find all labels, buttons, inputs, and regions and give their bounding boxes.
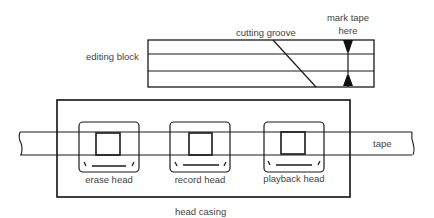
- cutting-groove: [273, 40, 316, 87]
- mark-tape-label-line2: here: [322, 25, 374, 36]
- playback-head-label: playback head: [254, 173, 334, 184]
- cutting-groove-label: cutting groove: [236, 27, 296, 38]
- playback-head: [264, 122, 324, 172]
- tape-label: tape: [373, 138, 392, 149]
- editing-block-label: editing block: [86, 51, 139, 62]
- editing-block: [148, 40, 374, 87]
- record-head: [170, 122, 230, 172]
- erase-head: [79, 122, 139, 172]
- record-head-label: record head: [165, 174, 235, 185]
- mark-tape-label-line1: mark tape: [322, 12, 374, 23]
- head-casing-label: head casing: [175, 206, 226, 217]
- erase-head-label: erase head: [79, 174, 139, 185]
